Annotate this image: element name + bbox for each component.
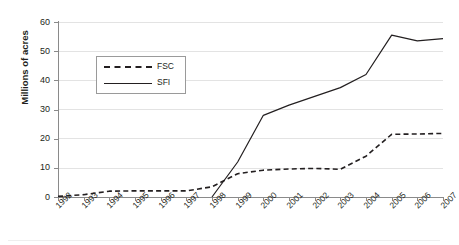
legend-label-fsc: FSC: [157, 61, 174, 71]
chart-legend: FSC SFI: [96, 56, 186, 94]
legend-swatch-solid-icon: [104, 83, 152, 84]
series-line-fsc: [58, 133, 443, 196]
legend-item-fsc: FSC: [97, 59, 185, 75]
legend-swatch-dashed-icon: [104, 66, 152, 68]
bottom-divider: [8, 240, 440, 241]
legend-label-sfi: SFI: [157, 77, 170, 87]
legend-item-sfi: SFI: [97, 75, 185, 91]
